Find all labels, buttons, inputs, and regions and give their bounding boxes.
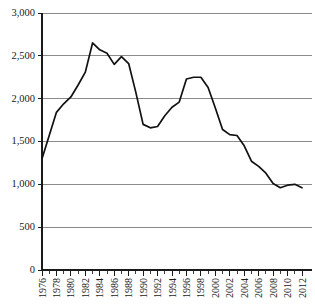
y-tick-label-1500: 1,500 — [11, 135, 35, 146]
x-tick-label-1990: 1990 — [138, 278, 149, 298]
x-tick-label-2004: 2004 — [239, 278, 250, 298]
x-tick-label-2010: 2010 — [282, 278, 293, 298]
y-tick-label-3000: 3,000 — [11, 7, 35, 18]
line-chart: 05001,0001,5002,0002,5003,000 1976197819… — [0, 0, 315, 308]
y-tick-label-0: 0 — [30, 264, 35, 275]
y-tick-label-500: 500 — [19, 221, 35, 232]
x-tick-label-2000: 2000 — [210, 278, 221, 298]
x-tick-label-1994: 1994 — [167, 278, 178, 298]
x-tick-label-1986: 1986 — [109, 278, 120, 298]
x-axis-labels-group: 1976197819801982198419861988199019921994… — [37, 278, 308, 298]
x-tick-label-1982: 1982 — [80, 278, 91, 298]
y-tick-label-2000: 2,000 — [11, 93, 35, 104]
y-tick-label-1000: 1,000 — [11, 178, 35, 189]
x-tick-label-2012: 2012 — [297, 278, 308, 298]
chart-canvas: 05001,0001,5002,0002,5003,000 1976197819… — [0, 0, 315, 308]
x-tick-label-1998: 1998 — [195, 278, 206, 298]
x-tick-label-1980: 1980 — [65, 278, 76, 298]
x-tick-label-1992: 1992 — [152, 278, 163, 298]
y-axis-labels-group: 05001,0001,5002,0002,5003,000 — [11, 7, 35, 275]
x-tick-label-2008: 2008 — [268, 278, 279, 298]
x-tick-label-2006: 2006 — [253, 278, 264, 298]
data-series-line — [42, 43, 302, 188]
x-tick-label-2002: 2002 — [224, 278, 235, 298]
x-tick-label-1996: 1996 — [181, 278, 192, 298]
x-axis-ticks-group — [42, 270, 302, 276]
x-tick-label-1988: 1988 — [123, 278, 134, 298]
gridlines-group — [42, 13, 312, 227]
y-tick-label-2500: 2,500 — [11, 50, 35, 61]
x-tick-label-1984: 1984 — [94, 278, 105, 298]
x-tick-label-1978: 1978 — [51, 278, 62, 298]
x-tick-label-1976: 1976 — [37, 278, 48, 298]
